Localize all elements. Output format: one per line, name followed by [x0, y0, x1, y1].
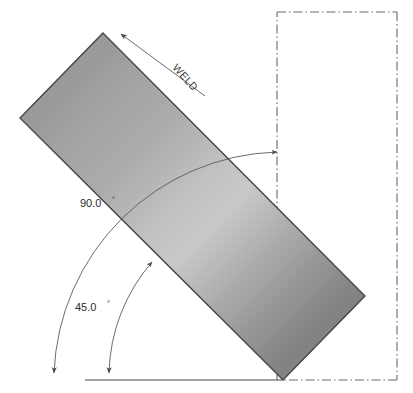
angle-dimension-45 — [109, 262, 152, 373]
angle-label-45-degree-symbol: ° — [107, 299, 110, 308]
weld-plate-diagram: 90.0 ° 45.0 ° WELD — [0, 0, 413, 393]
angle-label-45-value: 45.0 — [75, 301, 96, 313]
technical-drawing-canvas: 90.0 ° 45.0 ° WELD — [0, 0, 413, 393]
angle-label-90-value: 90.0 — [80, 197, 101, 209]
weld-label: WELD — [171, 61, 201, 93]
angle-label-45: 45.0 ° — [75, 299, 110, 313]
angle-label-90-degree-symbol: ° — [112, 195, 115, 204]
